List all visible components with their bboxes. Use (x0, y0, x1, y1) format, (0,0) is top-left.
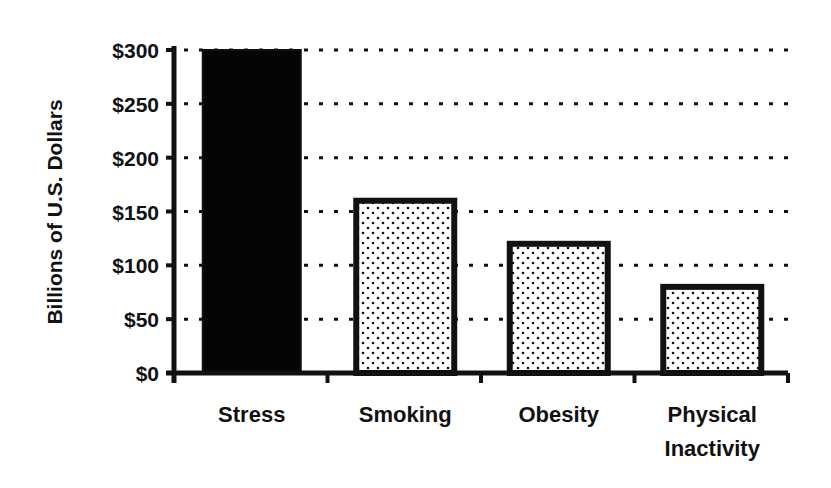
y-tick-labels: $0$50$100$150$200$250$300 (112, 39, 159, 385)
y-axis-title: Billions of U.S. Dollars (43, 99, 66, 324)
y-tick-label: $50 (124, 308, 159, 331)
y-tick-label: $0 (136, 362, 159, 385)
x-category-labels: StressSmokingObesityPhysicalInactivity (218, 402, 761, 461)
y-tick-label: $250 (112, 93, 159, 116)
x-category-label: Stress (218, 402, 285, 427)
x-category-label: Obesity (518, 402, 599, 427)
bar-obesity (510, 244, 608, 373)
bar-physical-inactivity (663, 287, 761, 373)
y-tick-label: $200 (112, 147, 159, 170)
x-category-label: Smoking (359, 402, 452, 427)
bar-chart: $0$50$100$150$200$250$300 StressSmokingO… (0, 0, 831, 488)
x-category-label: Physical (668, 402, 757, 427)
y-tick-label: $150 (112, 201, 159, 224)
bar-stress (203, 50, 301, 373)
bar-smoking (356, 201, 454, 373)
y-tick-label: $100 (112, 254, 159, 277)
y-tick-label: $300 (112, 39, 159, 62)
bars (203, 50, 762, 373)
x-category-label: Inactivity (665, 436, 761, 461)
